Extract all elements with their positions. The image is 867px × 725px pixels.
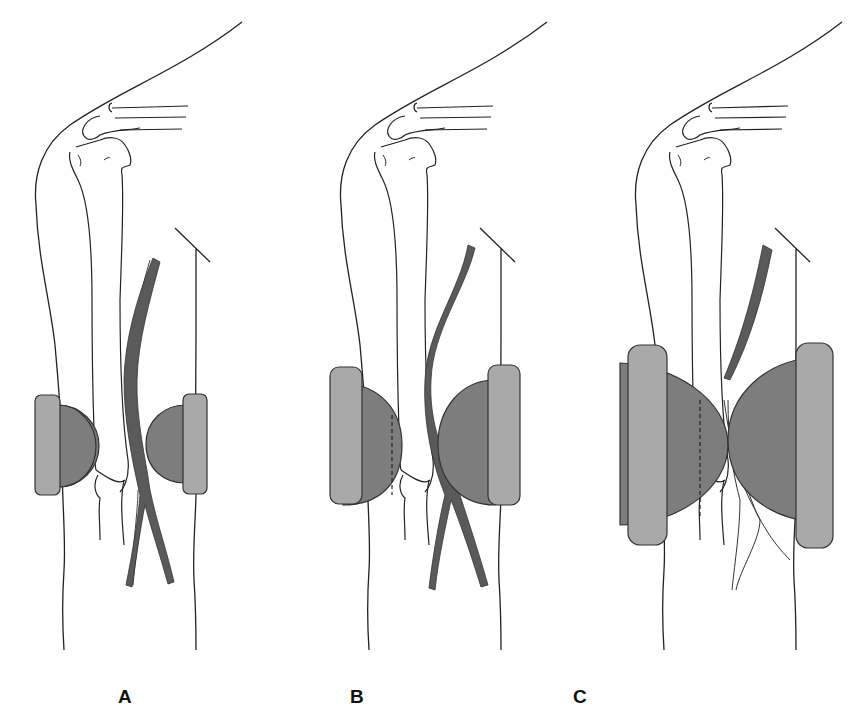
artery-icon [724,245,772,380]
panel-label-c: C [573,686,587,708]
panel-c [620,22,842,650]
knee-compression-diagram [0,0,867,725]
panel-b [330,22,547,650]
compression-pad-b-left [330,367,362,504]
compression-pad-b-right [488,365,520,505]
compression-pad-c-right [796,343,833,548]
panel-label-b: B [350,686,364,708]
compression-pad-inner-a-right [146,405,185,483]
panel-label-a: A [118,686,132,708]
compression-pad-a-left [35,395,60,495]
compression-pad-inner-a-left [58,405,96,487]
panel-a [35,22,242,650]
compression-pad-c-left [628,345,667,545]
compression-pad-a-right [183,394,207,494]
